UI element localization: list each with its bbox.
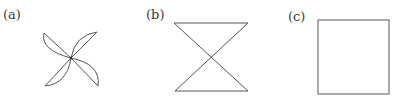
square-shape bbox=[318, 20, 389, 94]
hourglass-shape bbox=[174, 23, 248, 91]
pinwheel-shape bbox=[44, 32, 99, 86]
figures-canvas bbox=[0, 0, 399, 99]
